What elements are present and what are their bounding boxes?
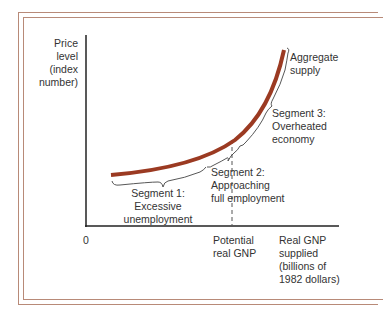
segment3-label: Segment 3: Overheated economy xyxy=(272,107,327,146)
x-axis-label: Real GNP supplied (billions of 1982 doll… xyxy=(279,234,340,286)
origin-label: 0 xyxy=(83,234,89,247)
segment1-label: Segment 1: Excessive unemployment xyxy=(112,187,204,226)
potential-gnp-label: Potential real GNP xyxy=(213,234,256,260)
aggregate-supply-label: Aggregate supply xyxy=(290,51,338,77)
aggregate-supply-curve xyxy=(111,50,284,175)
y-axis-label: Price level (index number) xyxy=(30,37,78,89)
segment2-label: Segment 2: Approaching full employment xyxy=(211,166,285,205)
